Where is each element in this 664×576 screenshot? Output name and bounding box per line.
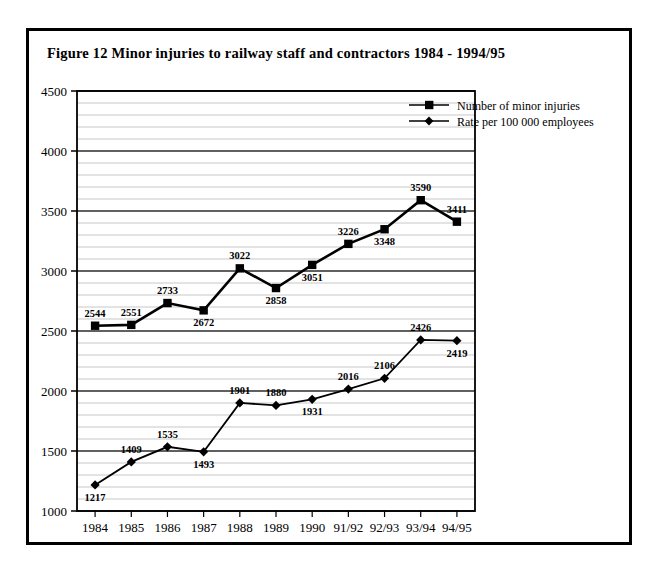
data-point-marker[interactable] xyxy=(344,240,352,248)
data-point-label: 2733 xyxy=(157,285,178,296)
figure-frame: Figure 12 Minor injuries to railway staf… xyxy=(26,28,632,545)
data-point-marker[interactable] xyxy=(91,322,99,330)
y-axis-tick-label: 2500 xyxy=(41,324,67,339)
data-point-marker[interactable] xyxy=(308,395,317,404)
data-point-label: 3411 xyxy=(447,204,467,215)
line-chart: 1000150020002500300035004000450019841985… xyxy=(29,31,629,542)
data-point-marker[interactable] xyxy=(271,401,280,410)
data-point-label: 3348 xyxy=(374,236,395,247)
y-axis-tick-label: 4500 xyxy=(41,84,67,99)
data-point-marker[interactable] xyxy=(163,299,171,307)
data-point-label: 2544 xyxy=(85,308,107,319)
legend-label-0: Number of minor injuries xyxy=(457,99,580,113)
data-point-marker[interactable] xyxy=(127,457,136,466)
x-axis-tick-label: 1984 xyxy=(82,520,109,535)
data-point-marker[interactable] xyxy=(308,261,316,269)
x-axis-tick-label: 1986 xyxy=(154,520,181,535)
data-point-label: 1901 xyxy=(229,385,250,396)
data-point-marker[interactable] xyxy=(417,196,425,204)
y-axis-tick-label: 1500 xyxy=(41,444,67,459)
data-point-marker[interactable] xyxy=(452,336,461,345)
x-axis-tick-label: 1985 xyxy=(118,520,144,535)
data-point-marker[interactable] xyxy=(344,384,353,393)
data-point-label: 2106 xyxy=(374,360,395,371)
y-axis-tick-label: 4000 xyxy=(41,144,67,159)
data-point-label: 1493 xyxy=(193,459,214,470)
data-point-label: 1880 xyxy=(266,387,287,398)
data-point-marker[interactable] xyxy=(380,225,388,233)
data-point-label: 2858 xyxy=(266,295,287,306)
data-point-label: 3590 xyxy=(410,182,431,193)
data-point-label: 1409 xyxy=(121,444,142,455)
x-axis-tick-label: 91/92 xyxy=(334,520,364,535)
y-axis-tick-label: 2000 xyxy=(41,384,67,399)
data-point-marker[interactable] xyxy=(453,217,461,225)
x-axis-tick-label: 1988 xyxy=(227,520,253,535)
x-axis-tick-label: 1990 xyxy=(299,520,325,535)
legend-marker-square xyxy=(425,101,433,109)
data-point-marker[interactable] xyxy=(127,321,135,329)
data-point-label: 3226 xyxy=(338,226,359,237)
y-axis-tick-label: 3000 xyxy=(41,264,67,279)
x-axis-tick-label: 94/95 xyxy=(442,520,472,535)
x-axis-tick-label: 1987 xyxy=(191,520,218,535)
data-point-label: 2426 xyxy=(410,322,431,333)
legend-label-1: Rate per 100 000 employees xyxy=(457,115,594,129)
data-point-label: 2419 xyxy=(446,348,467,359)
data-point-marker[interactable] xyxy=(199,306,207,314)
data-point-label: 2016 xyxy=(338,371,359,382)
x-axis-tick-label: 93/94 xyxy=(406,520,436,535)
data-point-label: 1217 xyxy=(85,492,106,503)
data-point-marker[interactable] xyxy=(272,284,280,292)
y-axis-tick-label: 3500 xyxy=(41,204,67,219)
data-point-label: 2551 xyxy=(121,307,142,318)
x-axis-tick-label: 92/93 xyxy=(370,520,400,535)
legend-marker-diamond xyxy=(425,117,434,126)
data-point-marker[interactable] xyxy=(163,442,172,451)
data-point-marker[interactable] xyxy=(236,264,244,272)
x-axis-tick-label: 1989 xyxy=(263,520,289,535)
data-point-label: 1931 xyxy=(302,406,323,417)
y-axis-tick-label: 1000 xyxy=(41,504,67,519)
data-point-label: 3022 xyxy=(229,250,250,261)
data-point-label: 1535 xyxy=(157,429,178,440)
data-point-label: 2672 xyxy=(193,317,214,328)
data-point-marker[interactable] xyxy=(90,480,99,489)
data-point-label: 3051 xyxy=(302,272,323,283)
